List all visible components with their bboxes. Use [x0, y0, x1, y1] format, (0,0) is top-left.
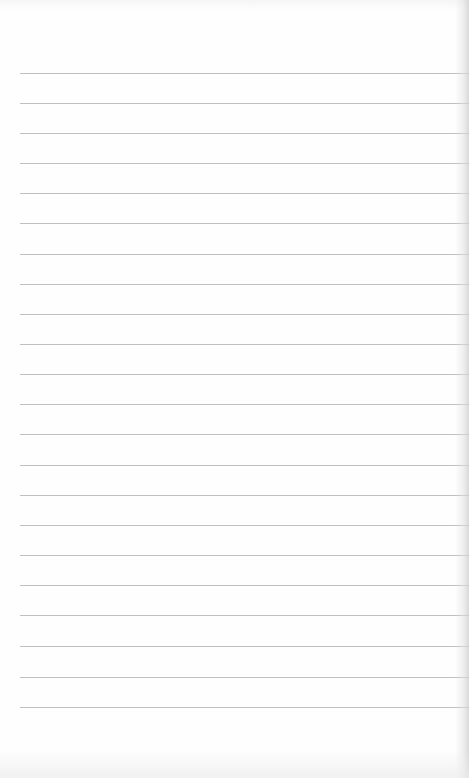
ruled-line: [20, 314, 469, 315]
ruled-line: [20, 465, 469, 466]
ruled-line: [20, 434, 469, 435]
ruled-line: [20, 707, 469, 708]
ruled-line: [20, 677, 469, 678]
ruled-line: [20, 525, 469, 526]
ruled-line: [20, 103, 469, 104]
ruled-line: [20, 254, 469, 255]
page-bottom-tint: [0, 750, 469, 778]
ruled-line: [20, 163, 469, 164]
ruled-line: [20, 646, 469, 647]
ruled-line: [20, 133, 469, 134]
ruled-line: [20, 495, 469, 496]
top-edge-bleed: [0, 0, 469, 10]
ruled-line: [20, 615, 469, 616]
ruled-line: [20, 555, 469, 556]
ruled-line: [20, 344, 469, 345]
ruled-line: [20, 73, 469, 74]
ruled-line: [20, 374, 469, 375]
notebook-page: [0, 0, 469, 778]
ruled-line: [20, 193, 469, 194]
ruled-line: [20, 223, 469, 224]
ruled-line: [20, 284, 469, 285]
page-edge-shadow: [455, 0, 469, 778]
ruled-line: [20, 404, 469, 405]
ruled-line: [20, 585, 469, 586]
